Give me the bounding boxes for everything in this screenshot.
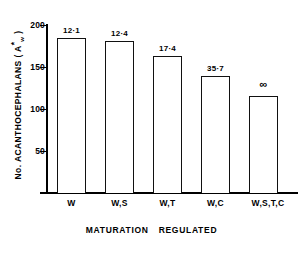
bar-value-wstc: ∞ bbox=[241, 80, 286, 88]
y-axis-title-close: ) bbox=[13, 31, 23, 37]
bar-value-ws: 12·4 bbox=[97, 29, 142, 38]
y-tick-label-200: 200 bbox=[15, 20, 45, 30]
bar-value-w: 12·1 bbox=[49, 26, 94, 35]
x-axis-title: MATURATIONREGULATED bbox=[0, 225, 303, 235]
bar-chart-figure: No. ACANTHOCEPHALANS ( A*w ) 200 150 100… bbox=[0, 0, 303, 255]
y-axis-superscript-star: * bbox=[9, 42, 19, 46]
x-tick-label-wt: W,T bbox=[145, 198, 190, 208]
y-axis-subscript-w: w bbox=[19, 37, 25, 42]
bar-value-wc: 35·7 bbox=[193, 64, 238, 73]
x-axis-title-right: REGULATED bbox=[159, 225, 218, 235]
x-tick-label-w: W bbox=[49, 198, 94, 208]
y-axis-line bbox=[46, 24, 48, 194]
bar-wc bbox=[201, 76, 230, 194]
x-tick-label-wc: W,C bbox=[193, 198, 238, 208]
x-axis-title-left: MATURATION bbox=[86, 225, 149, 235]
x-tick-label-wstc: W,S,T,C bbox=[238, 198, 298, 208]
bar-wstc bbox=[249, 96, 278, 194]
y-tick-label-100: 100 bbox=[15, 104, 45, 114]
bar-value-wt: 17·4 bbox=[145, 44, 190, 53]
bar-w bbox=[57, 38, 86, 193]
bar-wt bbox=[153, 56, 182, 193]
y-tick-label-50: 50 bbox=[15, 146, 45, 156]
bar-ws bbox=[105, 41, 134, 194]
y-tick-label-150: 150 bbox=[15, 62, 45, 72]
x-tick-label-ws: W,S bbox=[97, 198, 142, 208]
